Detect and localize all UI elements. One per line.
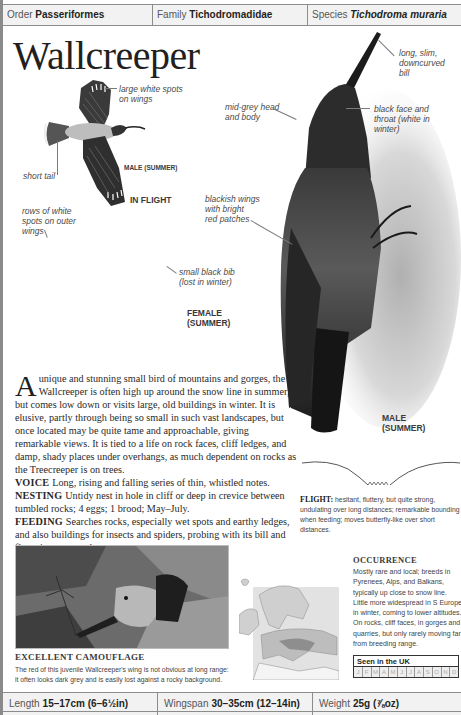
family-cell: Family Tichodromadidae [153, 5, 308, 25]
flight-caption: FLIGHT: hesitant, fluttery, but quite st… [300, 495, 460, 535]
page-title: Wallcreeper [13, 32, 200, 79]
wingspan-label: Wingspan [164, 698, 208, 709]
label-black-face-throat: black face andthroat (white inwinter) [374, 104, 430, 134]
nesting-heading: NESTING [15, 490, 62, 501]
label-male-summer: MALE(SUMMER) [382, 413, 425, 433]
seen-in-uk-box: Seen in the UK J F M A M J J A S O N D [353, 655, 459, 678]
occurrence-heading: OCCURRENCE [353, 555, 417, 565]
seen-in-uk-heading: Seen in the UK [354, 656, 458, 667]
range-map [239, 575, 339, 680]
species-value: Tichodroma muraria [350, 9, 447, 20]
month-may: M [389, 667, 398, 677]
flight-heading: FLIGHT: [300, 495, 333, 504]
month-oct: O [433, 667, 442, 677]
weight-value: 25g (⅞oz) [353, 698, 399, 709]
wingspan-value: 30–35cm (12–14in) [211, 698, 299, 709]
camouflage-heading: EXCELLENT CAMOUFLAGE [15, 652, 145, 662]
label-large-white-spots: large white spotson wings [119, 84, 183, 104]
label-short-tail: short tail [23, 171, 55, 181]
label-rows-white-spots: rows of whitespots on outerwings [22, 206, 76, 236]
month-nov: N [442, 667, 451, 677]
leader-line [346, 108, 370, 109]
species-cell: Species Tichodroma muraria [308, 5, 461, 25]
intro-paragraph: Aunique and stunning small bird of mount… [15, 372, 297, 476]
month-calendar: J F M A M J J A S O N D [354, 667, 458, 677]
feeding-heading: FEEDING [15, 516, 63, 527]
label-in-flight: IN FLIGHT [130, 195, 172, 205]
month-jul: J [407, 667, 416, 677]
juvenile-wallcreeper-photo [16, 546, 229, 649]
label-female-summer: FEMALE(SUMMER) [187, 308, 230, 328]
flight-pattern-diagram [298, 455, 461, 495]
taxonomy-bar: Order Passeriformes Family Tichodromadid… [3, 4, 461, 26]
camouflage-photo [15, 545, 229, 649]
weight-label: Weight [319, 698, 350, 709]
month-feb: F [363, 667, 372, 677]
label-small-black-bib: small black bib(lost in winter) [179, 267, 235, 287]
leader-line [166, 266, 176, 274]
measurements-bar-next-row [3, 711, 461, 715]
month-sep: S [424, 667, 433, 677]
month-apr: A [380, 667, 389, 677]
label-male-summer-flight: MALE (SUMMER) [124, 163, 177, 173]
month-aug: A [415, 667, 424, 677]
voice-heading: VOICE [15, 477, 49, 488]
species-label: Species [312, 9, 348, 20]
length-value: 15–17cm (6–6½in) [43, 698, 129, 709]
voice-paragraph: VOICELong, rising and falling series of … [15, 476, 297, 489]
nesting-paragraph: NESTINGUntidy nest in hole in cliff or d… [15, 489, 297, 515]
species-description: Aunique and stunning small bird of mount… [15, 372, 297, 554]
month-mar: M [372, 667, 381, 677]
europe-map-icon [239, 575, 339, 680]
camouflage-caption: The red of this juvenile Wallcreeper's w… [15, 665, 233, 685]
month-jan: J [354, 667, 363, 677]
occurrence-text: Mostly rare and local; breeds in Pyrenee… [353, 567, 461, 649]
order-label: Order [7, 9, 33, 20]
month-jun: J [398, 667, 407, 677]
field-guide-page: Order Passeriformes Family Tichodromadid… [0, 0, 461, 715]
length-label: Length [9, 698, 40, 709]
leader-line [105, 88, 117, 89]
order-value: Passeriformes [35, 9, 104, 20]
leader-line [57, 141, 58, 175]
month-dec: D [450, 667, 458, 677]
order-cell: Order Passeriformes [3, 5, 153, 25]
drop-cap: A [15, 374, 37, 398]
family-value: Tichodromadidae [189, 9, 272, 20]
label-mid-grey-head: mid-grey headand body [225, 102, 279, 122]
label-long-slim-bill: long, slim,downcurvedbill [399, 48, 445, 78]
family-label: Family [157, 9, 186, 20]
